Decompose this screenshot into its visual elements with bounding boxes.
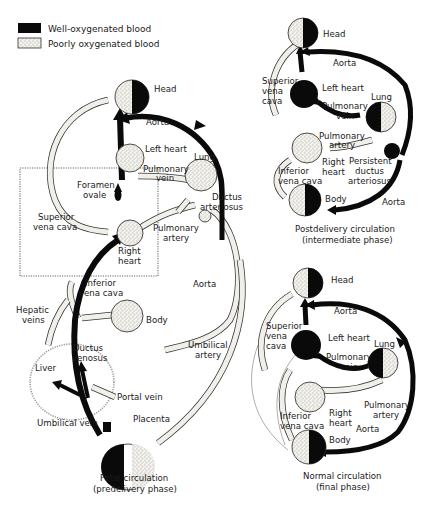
postdelivery-lung: [366, 102, 396, 132]
label-right-heart-2: heart: [118, 256, 142, 266]
normal-lung: [368, 348, 398, 378]
postdelivery-head: [288, 18, 318, 48]
label-pulmonary-artery-2: artery: [163, 233, 189, 243]
label-left-heart: Left heart: [145, 144, 187, 154]
n-label-head: Head: [331, 275, 353, 285]
label-ductus-arteriosus-1: Ductus: [212, 192, 243, 202]
pd-label-lung: Lung: [371, 92, 392, 102]
pd-label-persistent-ductus-3: arteriosus: [348, 176, 392, 186]
normal-body: [292, 430, 326, 464]
normal-circulation-panel: Head Aorta Superior vena cava Left heart…: [252, 268, 414, 492]
pd-label-ivc-1: Inferior: [278, 166, 309, 176]
fetal-circulation-panel: Head Aorta Left heart Lung Pulmonary vei…: [16, 80, 244, 494]
legend: Well-oxygenated blood Poorly oxygenated …: [18, 23, 159, 49]
right-heart-organ: [117, 220, 143, 246]
pd-label-pulmonary-vein-1: Pulmonary: [322, 101, 368, 111]
legend-swatch-well-oxygenated: [18, 23, 41, 33]
legend-label-well-oxygenated: Well-oxygenated blood: [48, 24, 151, 34]
label-hepatic-veins-2: veins: [22, 315, 45, 325]
label-aorta-mid: Aorta: [193, 279, 216, 289]
postdelivery-body: [289, 184, 321, 216]
pd-label-body: Body: [325, 194, 347, 204]
pd-label-right-heart-2: heart: [322, 167, 346, 177]
postdelivery-right-heart: [292, 133, 322, 163]
lung-organ: [185, 159, 217, 191]
circulation-diagram: Well-oxygenated blood Poorly oxygenated …: [0, 0, 432, 505]
label-head: Head: [154, 84, 176, 94]
legend-swatch-poorly-oxygenated: [18, 38, 41, 48]
normal-left-heart: [291, 330, 321, 360]
pd-label-head: Head: [323, 29, 345, 39]
label-ductus-arteriosus-2: arteriosus: [200, 202, 244, 212]
label-pulmonary-artery-1: Pulmonary: [153, 223, 199, 233]
fetal-caption-line2: (predelivery phase): [93, 484, 177, 494]
label-aorta-top: Aorta: [146, 117, 169, 127]
label-portal-vein: Portal vein: [117, 392, 163, 402]
label-superior-vena-cava-2: vena cava: [33, 222, 77, 232]
label-placenta: Placenta: [133, 414, 170, 424]
label-umbilical-artery-1: Umbilical: [188, 340, 228, 350]
n-label-aorta-top: Aorta: [334, 306, 357, 316]
pd-label-left-heart: Left heart: [322, 83, 364, 93]
n-label-svc-1: Superior: [266, 321, 303, 331]
body-organ: [111, 300, 143, 332]
normal-caption-line1: Normal circulation: [303, 471, 382, 481]
pd-label-right-heart-1: Right: [322, 157, 345, 167]
postdelivery-caption-line1: Postdelivery circulation: [295, 224, 395, 234]
pd-label-aorta-top: Aorta: [333, 58, 356, 68]
n-label-aorta-bottom: Aorta: [356, 424, 379, 434]
n-label-svc-3: cava: [266, 341, 286, 351]
pd-label-svc-2: vena: [262, 86, 283, 96]
n-label-ivc-2: vena cava: [280, 421, 324, 431]
label-foramen-ovale-2: ovale: [83, 190, 106, 200]
pd-label-aorta-bottom: Aorta: [382, 197, 405, 207]
label-right-heart-1: Right: [118, 246, 141, 256]
n-label-right-heart-2: heart: [329, 418, 353, 428]
label-foramen-ovale-1: Foramen: [77, 180, 115, 190]
postdelivery-caption-line2: (intermediate phase): [302, 235, 393, 245]
pd-label-persistent-ductus-1: Persistent: [349, 156, 392, 166]
pd-label-pulmonary-artery-2: artery: [329, 140, 355, 150]
n-label-pulmonary-artery-2: artery: [373, 410, 399, 420]
label-hepatic-veins-1: Hepatic: [16, 305, 49, 315]
n-label-body: Body: [329, 435, 351, 445]
label-lung: Lung: [194, 152, 215, 162]
label-inferior-vena-cava-1: Inferior: [85, 278, 116, 288]
label-superior-vena-cava-1: Superior: [38, 212, 75, 222]
label-umbilical-vein: Umbilical vein: [37, 418, 98, 428]
n-label-right-heart-1: Right: [329, 408, 352, 418]
n-label-left-heart: Left heart: [328, 333, 370, 343]
pd-label-pulmonary-vein-2: vein: [336, 111, 354, 121]
pd-label-persistent-ductus-2: ductus: [355, 166, 384, 176]
label-ductus-venosus-2: venosus: [72, 353, 108, 363]
legend-label-poorly-oxygenated: Poorly oxygenated blood: [48, 39, 159, 49]
fetal-caption-line1: Fetal circulation: [100, 473, 168, 483]
postdelivery-circulation-panel: Head Aorta Superior vena cava Left heart…: [262, 18, 411, 245]
n-label-lung: Lung: [374, 339, 395, 349]
pd-label-svc-1: Superior: [262, 76, 299, 86]
normal-right-heart: [295, 382, 325, 412]
left-heart-organ: [116, 144, 144, 172]
label-ductus-venosus-1: Ductus: [73, 343, 104, 353]
n-label-pulmonary-vein-1: Pulmonary: [326, 352, 372, 362]
label-pulmonary-vein-2: vein: [156, 173, 174, 183]
label-inferior-vena-cava-2: vena cava: [79, 288, 123, 298]
normal-caption-line2: (final phase): [316, 482, 370, 492]
label-body: Body: [146, 315, 168, 325]
head-organ: [115, 80, 149, 114]
pd-label-svc-3: cava: [262, 96, 282, 106]
label-umbilical-artery-2: artery: [195, 350, 221, 360]
n-label-svc-2: vena: [266, 331, 287, 341]
normal-head: [293, 268, 323, 298]
n-label-pulmonary-vein-2: vein: [340, 362, 358, 372]
label-liver: Liver: [35, 363, 57, 373]
pd-label-ivc-2: vena cava: [278, 176, 322, 186]
n-label-pulmonary-artery-1: Pulmonary: [364, 400, 410, 410]
n-label-ivc-1: Inferior: [280, 411, 311, 421]
